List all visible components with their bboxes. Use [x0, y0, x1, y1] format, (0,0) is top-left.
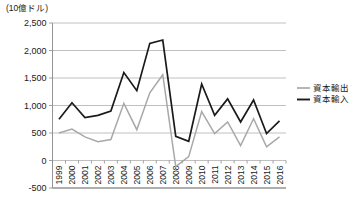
x-axis-tick-label: 2012: [223, 165, 233, 184]
x-axis-tick-label: 2004: [119, 165, 129, 184]
line-chart-plot: 2,5002,0001,5001,0005000-500 19992000200…: [0, 0, 354, 215]
x-axis-tick-label: 2003: [106, 165, 116, 184]
x-axis-tick-label: 2000: [67, 165, 77, 184]
chart-container: (10億ドル) 2,5002,0001,5001,0005000-500 199…: [0, 0, 354, 215]
legend-label-2: 資本輸入: [313, 94, 349, 104]
data-series-lines: [59, 40, 280, 167]
x-axis-tick-label: 2009: [184, 165, 194, 184]
x-axis-tick-label: 2006: [145, 165, 155, 184]
x-axis-tick-label: 1999: [54, 165, 64, 184]
y-axis-tick-label: 2,500: [24, 18, 47, 28]
x-axis-tick-label: 2016: [275, 165, 285, 184]
y-axis-tick-label: 0: [41, 156, 46, 166]
x-axis-tick-label: 2011: [210, 165, 220, 184]
x-axis-tick-labels: 1999200020012002200320042005200620072008…: [54, 165, 285, 184]
chart-legend: 資本輸出資本輸入: [297, 83, 349, 105]
y-axis-tick-label: 1,500: [24, 73, 47, 83]
x-axis-tick-label: 2001: [80, 165, 90, 184]
x-axis-tick-label: 2014: [249, 165, 259, 184]
x-axis-tick-label: 2005: [132, 165, 142, 184]
x-axis-tick-label: 2007: [158, 165, 168, 184]
y-axis-tick-label: 500: [31, 128, 46, 138]
legend-label-1: 資本輸出: [313, 83, 349, 93]
y-axis-tick-label: -500: [28, 183, 46, 193]
y-axis-tick-label: 1,000: [24, 101, 47, 111]
x-axis-tick-label: 2002: [93, 165, 103, 184]
y-axis-tick-label: 2,000: [24, 46, 47, 56]
x-axis-tick-label: 2015: [262, 165, 272, 184]
x-axis-tick-label: 2008: [171, 165, 181, 184]
x-axis-tick-label: 2013: [236, 165, 246, 184]
x-axis-tick-label: 2010: [197, 165, 207, 184]
y-axis-tick-labels: 2,5002,0001,5001,0005000-500: [24, 18, 47, 193]
series-line-2: [59, 40, 280, 141]
